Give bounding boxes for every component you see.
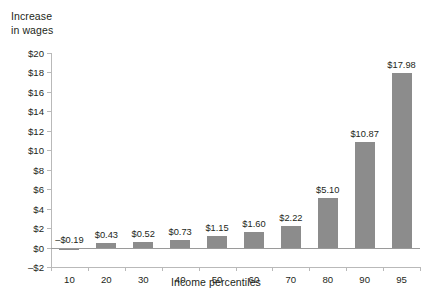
x-axis-tick xyxy=(272,267,273,271)
x-axis-tick xyxy=(88,267,89,271)
y-axis-tick xyxy=(47,170,51,171)
y-axis-tick xyxy=(47,228,51,229)
bar xyxy=(281,226,301,248)
bar-value-label: $0.52 xyxy=(132,229,155,239)
zero-baseline xyxy=(51,248,420,249)
y-axis-tick-label: $0 xyxy=(33,242,44,253)
bar xyxy=(244,232,264,248)
bar-value-label: $1.15 xyxy=(205,223,228,233)
x-axis-tick xyxy=(125,267,126,271)
y-axis-tick-label: $14 xyxy=(28,106,44,117)
y-axis-tick-label: $8 xyxy=(33,164,44,175)
y-axis-tick-label: $2 xyxy=(33,223,44,234)
y-axis-tick-label: $4 xyxy=(33,203,44,214)
y-axis-tick-label: $12 xyxy=(28,125,44,136)
y-axis-line xyxy=(51,53,52,267)
y-axis-tick xyxy=(47,150,51,151)
x-axis-tick xyxy=(420,267,421,271)
bar-value-label: $0.43 xyxy=(95,230,118,240)
y-axis-tick xyxy=(47,92,51,93)
bar xyxy=(392,73,412,248)
bar xyxy=(170,240,190,247)
x-axis-tick xyxy=(199,267,200,271)
x-axis-tick xyxy=(51,267,52,271)
plot-area: –$2$0$2$4$6$8$10$12$14$16$18$20 10203040… xyxy=(51,53,420,267)
y-axis-tick xyxy=(47,131,51,132)
bar-value-label: $1.60 xyxy=(242,219,265,229)
x-axis-title: Income percentiles xyxy=(0,276,432,288)
bar-value-label: $5.10 xyxy=(316,185,339,195)
y-axis-caption-line-1: Increase xyxy=(11,10,52,22)
bar-value-label: –$0.19 xyxy=(55,235,83,245)
y-axis-caption-line-2: in wages xyxy=(11,24,53,36)
y-axis-tick-label: $6 xyxy=(33,184,44,195)
bar-value-label: $2.22 xyxy=(279,213,302,223)
wage-increase-bar-chart: Increasein wages –$2$0$2$4$6$8$10$12$14$… xyxy=(0,0,432,299)
y-axis-tick xyxy=(47,72,51,73)
y-axis-tick-label: $18 xyxy=(28,67,44,78)
y-axis-tick-label: $16 xyxy=(28,86,44,97)
y-axis-tick-label: $20 xyxy=(28,48,44,59)
y-axis-tick xyxy=(47,209,51,210)
x-axis-tick xyxy=(309,267,310,271)
x-axis-tick xyxy=(162,267,163,271)
y-axis-tick xyxy=(47,189,51,190)
y-axis-caption: Increasein wages xyxy=(11,10,53,37)
y-axis-tick-label: –$2 xyxy=(28,262,44,273)
bar-value-label: $17.98 xyxy=(387,60,415,70)
x-axis-tick xyxy=(346,267,347,271)
bar-value-label: $0.73 xyxy=(169,227,192,237)
bar xyxy=(318,198,338,248)
y-axis-tick xyxy=(47,111,51,112)
bar-value-label: $10.87 xyxy=(350,129,378,139)
y-axis-tick xyxy=(47,53,51,54)
y-axis-tick-label: $10 xyxy=(28,145,44,156)
x-axis-tick xyxy=(236,267,237,271)
bar xyxy=(355,142,375,248)
x-axis-tick xyxy=(383,267,384,271)
bar xyxy=(207,236,227,247)
